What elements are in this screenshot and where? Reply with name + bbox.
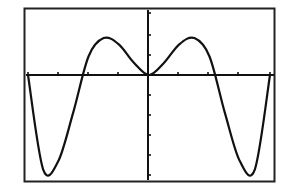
- calculator-graph-screen: Graphing calculator plot: [0, 0, 289, 193]
- function-plot: [0, 0, 289, 193]
